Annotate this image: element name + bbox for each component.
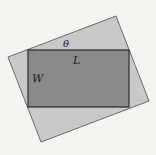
width-label-W: W <box>32 72 45 85</box>
diagram-svg: θ L W <box>0 0 156 155</box>
length-label-L: L <box>72 54 80 67</box>
diagram-canvas: θ L W <box>0 0 156 155</box>
angle-label-theta: θ <box>63 38 69 49</box>
